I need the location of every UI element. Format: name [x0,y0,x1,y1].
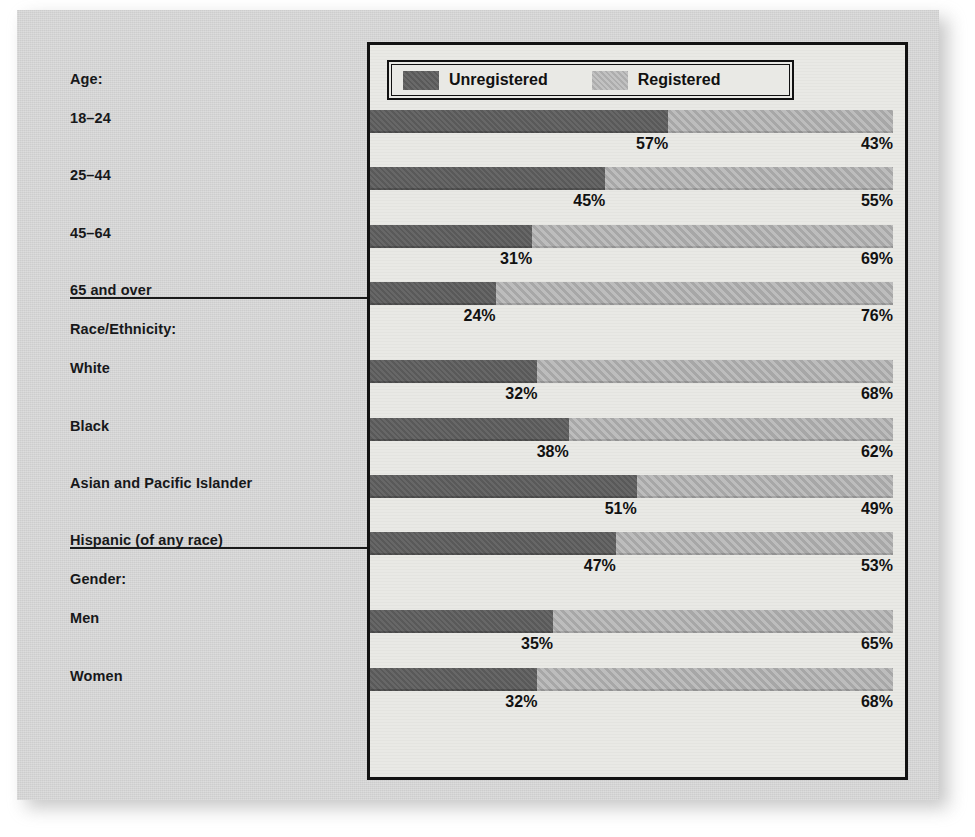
stacked-bar [370,360,893,383]
bar-value-row: 45%55% [370,192,893,214]
bar-value-unregistered: 57% [636,135,668,153]
stacked-bar [370,282,893,305]
category-label: 45–64 [70,225,111,241]
category-label: 18–24 [70,110,111,126]
bar-value-registered: 55% [861,192,893,210]
bar-segment-unregistered [370,225,532,248]
group-divider [70,547,367,549]
bar-value-registered: 65% [861,635,893,653]
category-label: Black [70,418,109,434]
stacked-bar [370,668,893,691]
bar-value-row: 57%43% [370,135,893,157]
bar-segment-unregistered [370,532,616,555]
stacked-bar [370,225,893,248]
group-heading: Gender: [70,571,126,587]
bar-segment-unregistered [370,418,569,441]
bar-segment-unregistered [370,167,605,190]
stacked-bar [370,475,893,498]
bar-value-registered: 49% [861,500,893,518]
bar-value-registered: 68% [861,693,893,711]
bar-segment-registered [569,418,893,441]
legend-swatch-registered-icon [592,71,628,90]
bar-segment-registered [668,110,893,133]
bar-segment-registered [637,475,893,498]
legend-swatch-unregistered-icon [403,71,439,90]
category-label: Asian and Pacific Islander [70,475,252,491]
bar-segment-unregistered [370,110,668,133]
bar-value-registered: 68% [861,385,893,403]
category-label-column: Age:18–2425–4445–6465 and overRace/Ethni… [17,10,367,800]
group-heading: Race/Ethnicity: [70,321,176,337]
bar-segment-unregistered [370,360,537,383]
bar-value-unregistered: 35% [521,635,553,653]
bar-value-row: 35%65% [370,635,893,657]
stacked-bar [370,110,893,133]
group-divider [70,297,367,299]
bar-segment-registered [553,610,893,633]
bar-value-row: 24%76% [370,307,893,329]
stacked-bar [370,167,893,190]
bar-value-unregistered: 47% [584,557,616,575]
category-label: Women [70,668,123,684]
bar-segment-registered [537,668,893,691]
figure-card: Age:18–2425–4445–6465 and overRace/Ethni… [17,10,939,800]
stacked-bar [370,610,893,633]
bar-value-registered: 62% [861,443,893,461]
legend-item-registered: Registered [592,71,721,90]
bar-value-unregistered: 51% [605,500,637,518]
group-heading: Age: [70,71,103,87]
bar-value-row: 32%68% [370,385,893,407]
chart-figure: Age:18–2425–4445–6465 and overRace/Ethni… [0,0,975,837]
legend-item-unregistered: Unregistered [403,71,548,90]
legend-label-registered: Registered [638,71,721,89]
chart-legend: Unregistered Registered [387,60,794,100]
category-label: Men [70,610,99,626]
bar-segment-unregistered [370,668,537,691]
bar-value-unregistered: 38% [537,443,569,461]
bar-value-registered: 43% [861,135,893,153]
category-label: 25–44 [70,167,111,183]
bar-value-unregistered: 32% [505,385,537,403]
bar-segment-registered [496,282,893,305]
bar-segment-unregistered [370,282,496,305]
bar-value-row: 47%53% [370,557,893,579]
bar-value-row: 31%69% [370,250,893,272]
bar-value-unregistered: 32% [505,693,537,711]
bar-value-registered: 53% [861,557,893,575]
bar-value-registered: 69% [861,250,893,268]
bar-value-row: 38%62% [370,443,893,465]
bar-segment-registered [537,360,893,383]
bar-value-unregistered: 24% [463,307,495,325]
bar-segment-unregistered [370,610,553,633]
category-label: Hispanic (of any race) [70,532,223,548]
category-label: 65 and over [70,282,152,298]
bar-segment-registered [605,167,893,190]
bar-value-row: 51%49% [370,500,893,522]
plot-panel: Unregistered Registered 57%43%45%55%31%6… [367,42,908,780]
bar-segment-registered [532,225,893,248]
bar-segment-unregistered [370,475,637,498]
bar-value-row: 32%68% [370,693,893,715]
stacked-bar [370,418,893,441]
bar-value-registered: 76% [861,307,893,325]
legend-label-unregistered: Unregistered [449,71,548,89]
bar-segment-registered [616,532,893,555]
bar-value-unregistered: 31% [500,250,532,268]
stacked-bar [370,532,893,555]
category-label: White [70,360,110,376]
bar-value-unregistered: 45% [573,192,605,210]
